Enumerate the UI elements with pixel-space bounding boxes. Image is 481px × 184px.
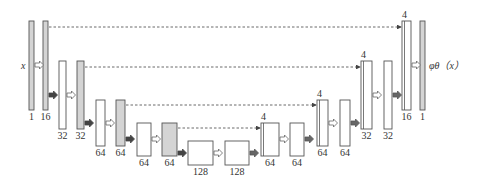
upsample-arrow-icon (250, 149, 259, 157)
channel-top-label: 4 (361, 49, 366, 60)
downsample-arrow-icon (126, 135, 135, 143)
unet-diagram: 1163232646464641281284646446464432324161… (0, 0, 481, 184)
upsample-arrow-icon (393, 91, 402, 99)
conv-arrow-icon (35, 61, 44, 69)
channel-label: 1 (29, 111, 34, 122)
feature-map-b3: 32 (58, 61, 68, 141)
channel-label: 128 (230, 166, 245, 177)
feature-map-b13: 464 (317, 88, 328, 158)
channel-label: 64 (165, 157, 175, 168)
channel-label: 64 (116, 147, 126, 158)
feature-map-b11: 464 (261, 111, 279, 168)
conv-arrow-icon (329, 119, 338, 127)
channel-top-label: 4 (261, 111, 266, 122)
channel-top-label: 4 (317, 88, 322, 99)
feature-map-b2: 16 (41, 21, 51, 122)
feature-map-b17: 416 (402, 9, 412, 122)
downsample-arrow-icon (49, 91, 58, 99)
channel-label: 32 (76, 130, 86, 141)
channel-label: 16 (41, 111, 51, 122)
channel-label: 32 (58, 130, 68, 141)
upsample-arrow-icon (351, 119, 360, 127)
channel-label: 64 (340, 147, 350, 158)
feature-map-b15: 432 (361, 49, 372, 141)
feature-map-b6: 64 (116, 100, 126, 158)
channel-top-label: 4 (402, 9, 407, 20)
feature-map-b16: 32 (383, 61, 393, 141)
conv-arrow-icon (106, 119, 115, 127)
channel-label: 32 (383, 130, 393, 141)
feature-map-b10: 128 (225, 141, 249, 177)
channel-label: 32 (362, 130, 372, 141)
conv-arrow-icon (412, 61, 421, 69)
feature-map-b4: 32 (76, 61, 86, 141)
downsample-arrow-icon (178, 149, 187, 157)
feature-map-b7: 64 (137, 123, 151, 168)
output-label: φθ（x） (429, 60, 464, 71)
channel-label: 64 (292, 157, 302, 168)
channel-label: 16 (402, 111, 412, 122)
conv-arrow-icon (280, 135, 289, 143)
input-label: x (20, 60, 26, 71)
feature-map-b8: 64 (162, 123, 177, 168)
feature-map-b12: 64 (290, 123, 304, 168)
channel-label: 64 (265, 157, 275, 168)
conv-arrow-icon (214, 149, 223, 157)
downsample-arrow-icon (85, 119, 94, 127)
channel-label: 1 (420, 111, 425, 122)
channel-label: 64 (139, 157, 149, 168)
feature-map-b14: 64 (340, 100, 350, 158)
feature-map-b5: 64 (96, 100, 106, 158)
feature-map-bars: 1163232646464641281284646446464432324161 (29, 9, 425, 177)
channel-label: 64 (96, 147, 106, 158)
feature-map-b1: 1 (29, 21, 34, 122)
channel-label: 64 (318, 147, 328, 158)
channel-label: 128 (193, 166, 208, 177)
upsample-arrow-icon (305, 135, 314, 143)
feature-map-b18: 1 (420, 21, 425, 122)
feature-map-b9: 128 (188, 141, 213, 177)
conv-arrow-icon (67, 91, 76, 99)
conv-arrow-icon (373, 91, 382, 99)
conv-arrow-icon (152, 135, 161, 143)
